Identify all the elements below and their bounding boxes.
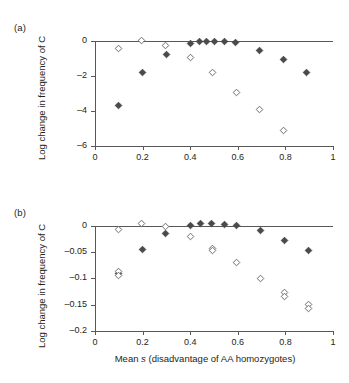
- panel-a-plot-area: 0–2–4–600.20.40.60.81: [95, 33, 333, 146]
- y-tick-label: 0: [43, 35, 87, 45]
- data-point-filled-diamond: [232, 39, 239, 46]
- x-tick-label: 0.2: [127, 337, 159, 347]
- data-point-open-diamond: [138, 220, 145, 227]
- y-tick-label: –0.15: [43, 299, 87, 309]
- panel-a-label: (a): [14, 22, 26, 33]
- x-tick: [285, 331, 286, 335]
- panel-b-plot-area: 0–0.05–0.1–0.15–0.200.20.40.60.81: [95, 218, 333, 331]
- data-point-filled-diamond: [139, 69, 146, 76]
- y-tick-label: –6: [43, 140, 87, 150]
- x-tick-label: 0: [79, 152, 111, 162]
- y-tick: [91, 252, 95, 253]
- x-tick: [190, 146, 191, 150]
- panel-a: (a) Log change in frequency of C 0–2–4–6…: [0, 0, 349, 185]
- data-point-filled-diamond: [208, 220, 215, 227]
- data-point-filled-diamond: [163, 51, 170, 58]
- data-point-open-diamond: [257, 275, 264, 282]
- x-tick-label: 0.8: [269, 152, 301, 162]
- figure-scatter-plots: (a) Log change in frequency of C 0–2–4–6…: [0, 0, 349, 383]
- data-point-open-diamond: [115, 272, 122, 279]
- y-tick: [91, 305, 95, 306]
- x-tick: [333, 331, 334, 335]
- data-point-filled-diamond: [187, 40, 194, 47]
- y-tick-label: –0.05: [43, 246, 87, 256]
- y-tick: [91, 41, 95, 42]
- data-point-filled-diamond: [115, 102, 122, 109]
- data-point-open-diamond: [280, 127, 287, 134]
- y-tick-label: –0.1: [43, 272, 87, 282]
- data-point-filled-diamond: [233, 222, 240, 229]
- data-point-filled-diamond: [280, 56, 287, 63]
- y-tick-label: –4: [43, 105, 87, 115]
- data-point-filled-diamond: [221, 38, 228, 45]
- x-tick: [238, 146, 239, 150]
- x-tick: [95, 331, 96, 335]
- x-axis-line: [95, 331, 333, 332]
- x-tick-label: 1: [317, 152, 349, 162]
- y-tick: [91, 111, 95, 112]
- data-point-filled-diamond: [203, 38, 210, 45]
- data-point-filled-diamond: [211, 38, 218, 45]
- data-point-filled-diamond: [197, 220, 204, 227]
- data-point-open-diamond: [187, 233, 194, 240]
- x-tick-label: 1: [317, 337, 349, 347]
- data-point-open-diamond: [162, 223, 169, 230]
- x-tick-label: 0.4: [174, 152, 206, 162]
- data-point-filled-diamond: [139, 246, 146, 253]
- data-point-filled-diamond: [303, 69, 310, 76]
- data-point-filled-diamond: [187, 222, 194, 229]
- x-tick: [238, 331, 239, 335]
- data-point-open-diamond: [256, 106, 263, 113]
- x-tick: [333, 146, 334, 150]
- y-axis-line: [95, 226, 96, 331]
- y-axis-line: [95, 41, 96, 146]
- y-tick: [91, 278, 95, 279]
- x-tick-label: 0: [79, 337, 111, 347]
- x-tick-label: 0.8: [269, 337, 301, 347]
- x-tick: [143, 146, 144, 150]
- y-tick: [91, 226, 95, 227]
- data-point-filled-diamond: [305, 247, 312, 254]
- x-axis-label: Mean s (disadvantage of AA homozygotes): [60, 353, 349, 364]
- y-tick-label: –2: [43, 70, 87, 80]
- x-tick-label: 0.6: [222, 152, 254, 162]
- y-tick-label: 0: [43, 220, 87, 230]
- panel-b: (b) Log change in frequency of C 0–0.05–…: [0, 185, 349, 383]
- data-point-open-diamond: [233, 259, 240, 266]
- data-point-filled-diamond: [196, 38, 203, 45]
- data-point-open-diamond: [187, 54, 194, 61]
- data-point-open-diamond: [305, 305, 312, 312]
- x-tick-label: 0.6: [222, 337, 254, 347]
- x-tick-label: 0.4: [174, 337, 206, 347]
- data-point-open-diamond: [115, 226, 122, 233]
- data-point-filled-diamond: [256, 47, 263, 54]
- y-tick-label: –0.2: [43, 325, 87, 335]
- data-point-open-diamond: [209, 247, 216, 254]
- x-axis-line: [95, 146, 333, 147]
- data-point-filled-diamond: [257, 227, 264, 234]
- data-point-open-diamond: [281, 293, 288, 300]
- data-point-filled-diamond: [281, 237, 288, 244]
- data-point-open-diamond: [209, 69, 216, 76]
- data-point-filled-diamond: [221, 221, 228, 228]
- x-tick-label: 0.2: [127, 152, 159, 162]
- data-point-open-diamond: [233, 89, 240, 96]
- x-tick: [143, 331, 144, 335]
- data-point-open-diamond: [115, 45, 122, 52]
- y-tick: [91, 76, 95, 77]
- data-point-open-diamond: [162, 42, 169, 49]
- data-point-open-diamond: [138, 37, 145, 44]
- panel-b-label: (b): [14, 207, 26, 218]
- x-tick: [190, 331, 191, 335]
- x-tick: [285, 146, 286, 150]
- data-point-filled-diamond: [162, 230, 169, 237]
- x-tick: [95, 146, 96, 150]
